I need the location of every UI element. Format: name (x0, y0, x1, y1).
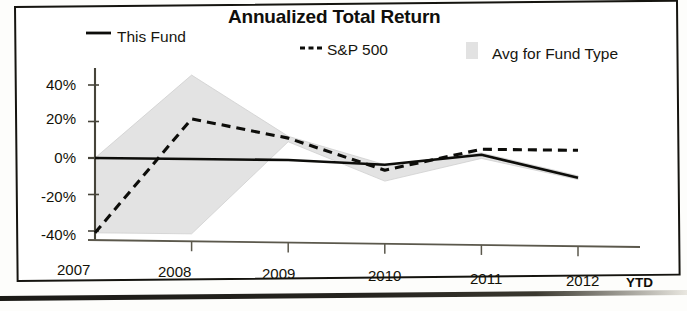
y-tick-label: 0% (16, 149, 76, 166)
x-tick-label: 2012 (566, 272, 599, 289)
x-axis-line (88, 240, 640, 247)
y-tick-label: 20% (16, 110, 76, 127)
x-tick-label: 2009 (262, 265, 295, 282)
y-tick-label: -20% (12, 188, 76, 205)
annualized-total-return-chart: Annualized Total Return This Fund S&P 50… (0, 0, 687, 311)
x-tick-label: 2008 (158, 263, 191, 280)
y-tick-label: -40% (12, 226, 76, 243)
x-tick-label: 2007 (57, 261, 90, 278)
chart-canvas (0, 0, 687, 311)
y-tick-label: 40% (16, 76, 76, 93)
x-tick-label: 2010 (368, 267, 401, 284)
avg-fund-type-band (95, 75, 578, 234)
x-tick-label: 2011 (470, 270, 502, 287)
x-axis-ytd-suffix: YTD (626, 275, 653, 290)
